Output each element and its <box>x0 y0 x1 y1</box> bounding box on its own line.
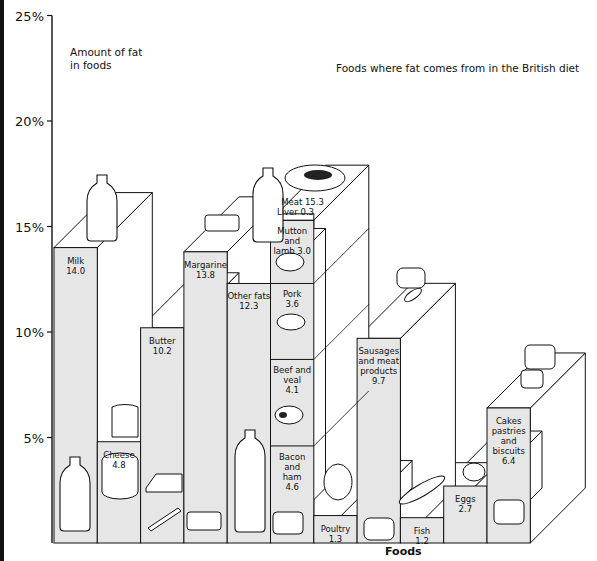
cake-icon <box>494 500 524 524</box>
margarine-tub-icon <box>187 512 221 530</box>
pig-icon <box>277 314 305 330</box>
pork-pie-top-icon <box>397 268 425 288</box>
bar-label: Fish 1.2 <box>400 526 443 546</box>
bar-label: Margarine 13.8 <box>184 260 227 280</box>
cheese-top-icon <box>112 404 138 437</box>
bar-label: Butter 10.2 <box>141 336 184 356</box>
oil-bottle-icon <box>235 430 265 532</box>
pork-pie-icon <box>364 518 394 540</box>
y-tick-label: 10% <box>15 325 44 340</box>
y-axis-title: Amount of fat in foods <box>70 46 150 72</box>
milk-bottle-top-icon <box>87 175 117 241</box>
bar-label: Eggs 2.7 <box>444 494 487 514</box>
y-tick-label: 25% <box>15 9 44 24</box>
cow-spot <box>279 412 287 418</box>
x-axis-title: Foods <box>385 545 422 558</box>
y-axis-title-text: Amount of fat in foods <box>70 46 150 72</box>
chart-title: Foods where fat comes from in the Britis… <box>336 62 579 74</box>
meat-segment-label: Bacon and ham 4.6 <box>271 452 314 492</box>
bar-label: Other fats 12.3 <box>227 291 270 311</box>
meat-segment-label: Mutton and lamb 3.0 <box>271 226 314 256</box>
y-tick-label: 15% <box>15 220 44 235</box>
egg-icon <box>463 463 485 481</box>
meat-total-label: Meat 15.3 <box>273 197 333 207</box>
cake-top-icon <box>525 345 555 369</box>
margarine-tub-top-icon <box>205 215 239 231</box>
bar-front-face <box>184 252 227 543</box>
chicken-icon <box>324 464 352 500</box>
liver-label: Liver 0.3 <box>271 207 321 217</box>
y-tick-label: 5% <box>23 431 44 446</box>
bar-label: Milk 14.0 <box>54 256 97 276</box>
bar-label: Sausages and meat products 9.7 <box>357 346 400 386</box>
y-tick-label: 20% <box>15 114 44 129</box>
meat-segment-label: Pork 3.6 <box>271 289 314 309</box>
bar-label: Poultry 1.3 <box>314 524 357 544</box>
biscuits-icon <box>521 370 543 388</box>
bar-label: Cheese 4.8 <box>97 450 140 470</box>
meat-on-plate-icon <box>304 170 332 180</box>
bacon-icon <box>273 512 303 534</box>
meat-segment-label: Beef and veal 4.1 <box>271 365 314 395</box>
bar-label: Cakes pastries and biscuits 6.4 <box>487 416 530 466</box>
